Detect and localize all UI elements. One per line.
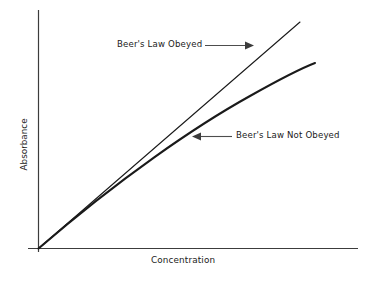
arrow-to-not-obeyed-curve bbox=[192, 133, 232, 141]
series-curve-beers-law-not-obeyed bbox=[39, 63, 316, 249]
x-axis-title: Concentration bbox=[151, 256, 215, 265]
annotation-label-beers-law-obeyed: Beer's Law Obeyed bbox=[117, 40, 202, 49]
annotation-label-beers-law-not-obeyed: Beer's Law Not Obeyed bbox=[236, 131, 340, 140]
beers-law-chart-figure: Beer's Law Obeyed Beer's Law Not Obeyed … bbox=[0, 0, 377, 281]
y-axis-title: Absorbance bbox=[20, 104, 29, 184]
arrow-to-obeyed-line bbox=[205, 42, 254, 50]
